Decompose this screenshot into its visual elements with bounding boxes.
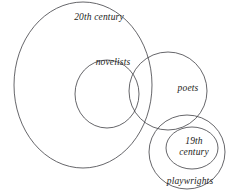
euler-diagram-canvas — [0, 0, 230, 192]
label-novelists: novelists — [96, 57, 131, 68]
label-19th-century-line1: 19th — [179, 136, 209, 147]
label-poets: poets — [178, 83, 199, 94]
circle-20th-century[interactable] — [14, 2, 152, 168]
label-19th-century-line2: century — [179, 147, 209, 158]
label-19th-century: 19th century — [179, 136, 209, 158]
label-20th-century: 20th century — [74, 12, 124, 23]
label-playwrights: playwrights — [167, 176, 214, 187]
euler-diagram: 20th century novelists poets 19th centur… — [0, 0, 230, 192]
